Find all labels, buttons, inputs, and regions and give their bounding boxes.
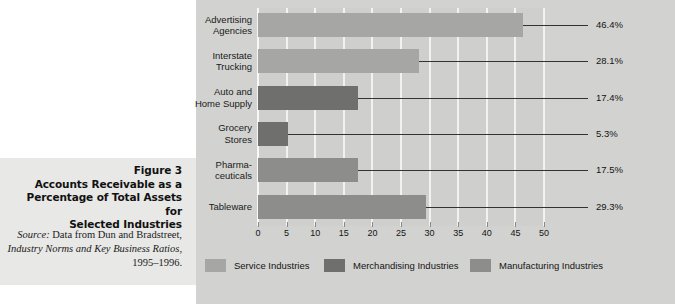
bar [258, 195, 426, 219]
x-tick-mark-15 [344, 222, 345, 227]
legend-label: Service Industries [234, 260, 310, 271]
legend-swatch [470, 259, 491, 272]
x-axis-tick-label: 50 [532, 228, 556, 238]
x-tick-mark-0 [258, 222, 259, 227]
figure-title-line-1: Figure 3 [10, 164, 182, 178]
category-label-line: Trucking [166, 61, 252, 73]
gridline-10 [314, 8, 316, 226]
caption-column: Figure 3 Accounts Receivable as a Percen… [0, 0, 196, 304]
gridline-5 [286, 8, 288, 226]
value-label: 17.4% [596, 92, 623, 103]
gridline-50 [543, 8, 545, 226]
category-label-line: Stores [166, 134, 252, 146]
figure-title-line-2: Accounts Receivable as a [10, 178, 182, 192]
value-leader-line [419, 61, 588, 62]
gridline-0 [257, 8, 259, 226]
x-axis-tick-label: 5 [275, 228, 299, 238]
figure-source: Source: Data from Dun and Bradstreet, In… [6, 228, 182, 270]
source-publication: Industry Norms and Key Business Ratios [8, 243, 180, 254]
category-label: InterstateTrucking [166, 50, 252, 73]
category-label: Pharma-ceuticals [166, 159, 252, 182]
legend-swatch [324, 259, 345, 272]
x-axis-tick-label: 15 [332, 228, 356, 238]
category-label: AdvertisingAgencies [166, 14, 252, 37]
value-label: 29.3% [596, 201, 623, 212]
category-label-line: ceuticals [166, 170, 252, 182]
x-tick-mark-50 [544, 222, 545, 227]
bar [258, 49, 419, 73]
bar [258, 122, 288, 146]
x-tick-mark-30 [430, 222, 431, 227]
category-label: GroceryStores [166, 122, 252, 145]
x-axis-tick-label: 20 [360, 228, 384, 238]
source-prefix: Source: [17, 229, 49, 240]
gridline-25 [400, 8, 402, 226]
value-leader-line [288, 134, 588, 135]
category-label-line: Agencies [166, 25, 252, 37]
legend-item[interactable]: Manufacturing Industries [470, 255, 603, 275]
value-leader-line [358, 98, 588, 99]
legend-label: Manufacturing Industries [499, 260, 603, 271]
chart-legend: Service IndustriesMerchandising Industri… [196, 255, 675, 281]
bar [258, 86, 358, 110]
x-tick-mark-25 [401, 222, 402, 227]
value-leader-line [358, 170, 588, 171]
gridline-35 [457, 8, 459, 226]
chart-panel: 05101520253035404550AdvertisingAgencies4… [196, 0, 675, 304]
category-label-line: Advertising [166, 14, 252, 26]
x-axis-tick-label: 30 [418, 228, 442, 238]
category-label: Auto andHome Supply [166, 86, 252, 109]
value-label: 46.4% [596, 19, 623, 30]
x-tick-mark-35 [458, 222, 459, 227]
value-leader-line [426, 207, 588, 208]
legend-swatch [205, 259, 226, 272]
x-axis-tick-label: 45 [503, 228, 527, 238]
source-text-1: Data from Dun and Bradstreet, [50, 229, 182, 240]
legend-item[interactable]: Merchandising Industries [324, 255, 459, 275]
x-axis-tick-label: 10 [303, 228, 327, 238]
value-label: 28.1% [596, 55, 623, 66]
category-label-line: Auto and [166, 86, 252, 98]
x-tick-mark-10 [315, 222, 316, 227]
gridline-20 [371, 8, 373, 226]
bar [258, 13, 523, 37]
category-label-line: Pharma- [166, 159, 252, 171]
category-label-line: Home Supply [166, 98, 252, 110]
category-label-line: Grocery [166, 122, 252, 134]
value-leader-line [523, 25, 588, 26]
value-label: 5.3% [596, 128, 618, 139]
gridline-30 [429, 8, 431, 226]
x-tick-mark-20 [372, 222, 373, 227]
gridline-15 [343, 8, 345, 226]
x-tick-mark-40 [487, 222, 488, 227]
category-label-line: Tableware [166, 201, 252, 213]
gridline-40 [486, 8, 488, 226]
figure-title-line-3: Percentage of Total Assets for [10, 191, 182, 218]
x-axis-tick-label: 40 [475, 228, 499, 238]
figure-title: Figure 3 Accounts Receivable as a Percen… [10, 164, 182, 232]
gridline-45 [514, 8, 516, 226]
legend-item[interactable]: Service Industries [205, 255, 310, 275]
x-tick-mark-5 [287, 222, 288, 227]
category-label: Tableware [166, 201, 252, 213]
x-axis-tick-label: 0 [246, 228, 270, 238]
figure-page: Figure 3 Accounts Receivable as a Percen… [0, 0, 675, 304]
x-axis-tick-label: 25 [389, 228, 413, 238]
value-label: 17.5% [596, 164, 623, 175]
legend-label: Merchandising Industries [353, 260, 459, 271]
category-label-line: Interstate [166, 50, 252, 62]
x-tick-mark-45 [515, 222, 516, 227]
x-axis-tick-label: 35 [446, 228, 470, 238]
bar [258, 158, 358, 182]
